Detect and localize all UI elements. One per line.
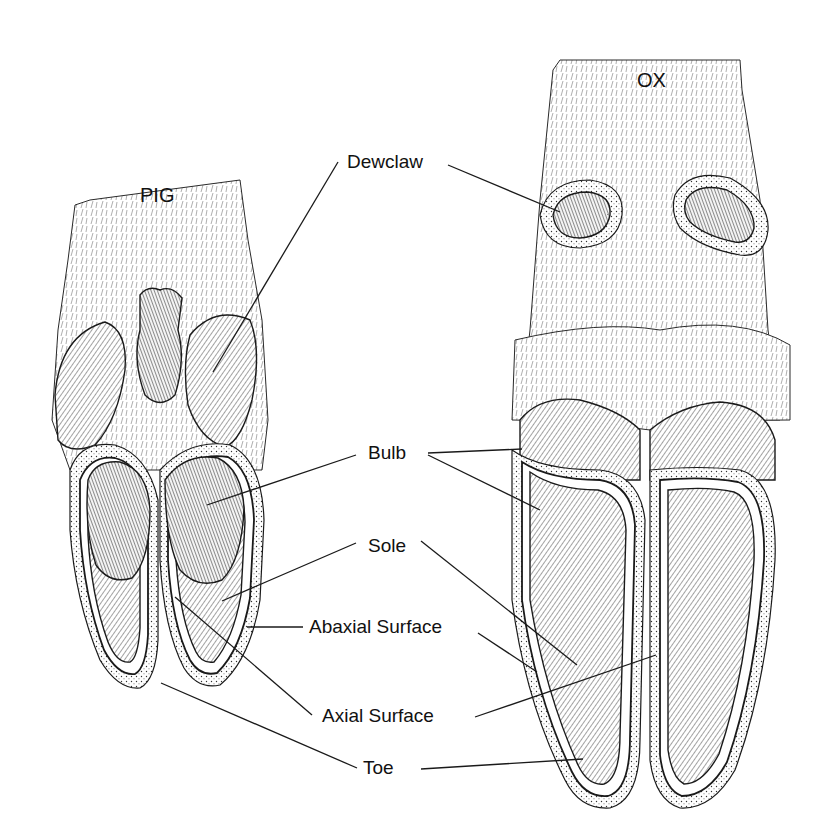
ox-foot-illustration xyxy=(512,60,790,808)
label-abaxial-surface: Abaxial Surface xyxy=(309,617,442,636)
label-bulb: Bulb xyxy=(368,443,406,462)
leader-line-bulb-1 xyxy=(428,449,522,453)
label-dewclaw: Dewclaw xyxy=(347,152,423,171)
label-axial-surface: Axial Surface xyxy=(322,706,434,725)
pig-foot-illustration xyxy=(52,180,268,688)
label-sole: Sole xyxy=(368,536,406,555)
label-toe: Toe xyxy=(363,758,394,777)
illustration-canvas xyxy=(0,0,814,823)
pig-title: PIG xyxy=(140,185,174,205)
anatomy-diagram: PIG OX Dewclaw Bulb Sole Abaxial Surface… xyxy=(0,0,814,823)
ox-title: OX xyxy=(637,70,666,90)
